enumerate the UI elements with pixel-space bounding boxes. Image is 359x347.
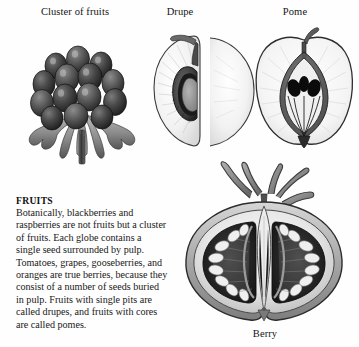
- peach-whole-half: [210, 38, 254, 146]
- tomato-calyx-arms: [221, 162, 314, 208]
- apple-cross-section-illustration: [252, 26, 356, 156]
- figure-caption-drupe: Drupe: [142, 6, 218, 17]
- figure-caption-cluster-of-fruits: Cluster of fruits: [0, 6, 150, 17]
- illustrated-page: Cluster of fruits Drupe Pome Berry: [0, 0, 359, 347]
- blackberry-cluster-illustration: [16, 26, 148, 166]
- peach-cross-section-illustration: [150, 26, 258, 154]
- peach-cut-half: [154, 35, 200, 146]
- article-body: Botanically, blackberries and raspberrie…: [16, 207, 168, 331]
- article-heading: FRUITS: [16, 195, 168, 206]
- tomato-cross-section-illustration: [172, 160, 356, 326]
- drupelets: [31, 46, 127, 130]
- fruits-article: FRUITS Botanically, blackberries and ras…: [16, 195, 168, 331]
- figure-caption-berry: Berry: [200, 328, 330, 339]
- figure-caption-pome: Pome: [240, 6, 350, 17]
- stem: [79, 130, 85, 164]
